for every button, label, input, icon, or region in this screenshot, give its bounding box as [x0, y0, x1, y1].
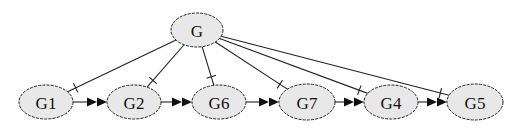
node-label: G1	[36, 94, 57, 113]
node-label: G	[191, 22, 203, 41]
arrowhead-icon	[259, 98, 269, 107]
tee-marker-icon	[73, 83, 77, 92]
node-g4: G4	[364, 85, 418, 119]
edge-g-g6	[202, 47, 216, 86]
node-label: G2	[124, 94, 145, 113]
edge-g4-g5	[418, 98, 447, 107]
arrowhead-icon	[354, 98, 364, 107]
node-g1: G1	[19, 85, 73, 119]
tee-marker-icon	[277, 80, 282, 88]
edge-g7-g4	[335, 98, 364, 107]
arrowhead-icon	[172, 98, 182, 107]
node-label: G5	[465, 94, 486, 113]
edge-g-g1	[68, 40, 176, 92]
node-g5: G5	[447, 84, 503, 120]
arrowhead-icon	[344, 98, 354, 107]
node-g6: G6	[192, 85, 246, 119]
arrowhead-icon	[182, 98, 192, 107]
arrowhead-icon	[97, 98, 107, 107]
arrowhead-icon	[427, 98, 437, 107]
arrowhead-icon	[269, 98, 279, 107]
arrowhead-icon	[87, 98, 97, 107]
node-g2: G2	[107, 85, 161, 119]
node-label: G7	[297, 94, 318, 113]
edge-g-g5	[221, 36, 449, 98]
edge-g1-g2	[73, 98, 107, 107]
node-g7: G7	[279, 84, 335, 120]
node-g: G	[171, 13, 223, 47]
node-label: G6	[209, 94, 230, 113]
graph-diagram: GG1G2G6G7G4G5	[0, 0, 518, 132]
edge-g-g7	[215, 42, 287, 89]
node-label: G4	[381, 94, 402, 113]
edge-g2-g6	[161, 98, 192, 107]
edge-g6-g7	[246, 98, 279, 107]
arrowhead-icon	[437, 98, 447, 107]
